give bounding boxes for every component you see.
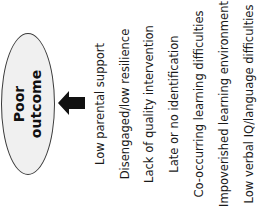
factor-co-occurring-learning-difficulties: Co-occurring learning difficulties <box>192 10 206 197</box>
factor-lack-of-quality-intervention: Lack of quality intervention <box>142 25 156 183</box>
arrow-left-icon <box>58 91 85 115</box>
poor-outcome-label: Poor outcome <box>11 70 45 138</box>
factor-disengaged-low-resilience: Disengaged/low resilience <box>118 29 132 179</box>
outcome-line-1: Poor <box>11 70 28 138</box>
factor-low-parental-support: Low parental support <box>93 43 107 165</box>
factor-late-or-no-identification: Late or no identification <box>167 35 181 172</box>
outcome-line-2: outcome <box>28 70 45 138</box>
factor-impoverished-learning-environment: Impoverished learning environment <box>217 1 231 207</box>
factor-low-verbal-iq-language-difficulties: Low verbal IQ/language difficulties <box>242 5 256 204</box>
